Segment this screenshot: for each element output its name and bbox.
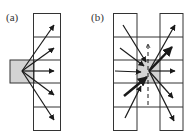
diagram-canvas [0, 0, 187, 140]
arrow-icon [22, 71, 54, 120]
cell-column [34, 14, 61, 131]
panel-b [114, 14, 184, 131]
arrow-icon [123, 25, 146, 62]
arrow-icon [149, 71, 174, 121]
arrow-icon [120, 48, 144, 66]
arrow-icon [22, 25, 54, 71]
bold-arrow-icon [124, 77, 147, 96]
panel-a [10, 14, 61, 131]
arrow-icon [125, 86, 141, 118]
